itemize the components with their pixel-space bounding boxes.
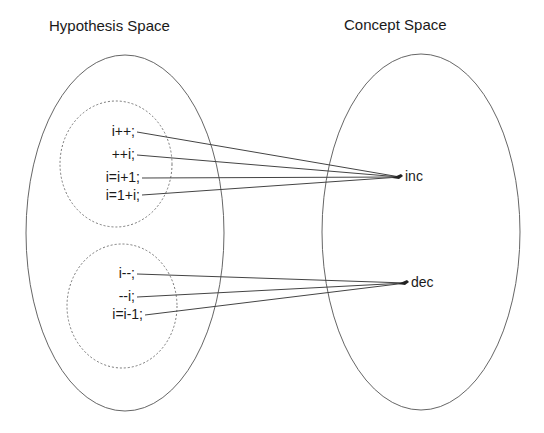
hypothesis-item: i--; [55,265,135,281]
increment-group-circle [60,101,172,227]
hypothesis-item: ++i; [55,146,135,162]
dec-mapping-lines [137,274,406,315]
concept-space-ellipse [322,54,520,410]
hypothesis-item: i=i-1; [63,306,143,322]
concept-dec: dec [411,274,434,290]
hypothesis-space-ellipse [26,55,224,411]
hypothesis-item: --i; [55,288,135,304]
hypothesis-item: i++; [55,123,135,139]
concept-inc: inc [405,168,423,184]
hypothesis-space-title: Hypothesis Space [49,17,170,34]
diagram-canvas [0,0,544,433]
concept-space-title: Concept Space [344,16,447,33]
inc-mapping-lines [137,132,400,195]
hypothesis-item: i=i+1; [60,169,140,185]
hypothesis-item: i=1+i; [60,187,140,203]
